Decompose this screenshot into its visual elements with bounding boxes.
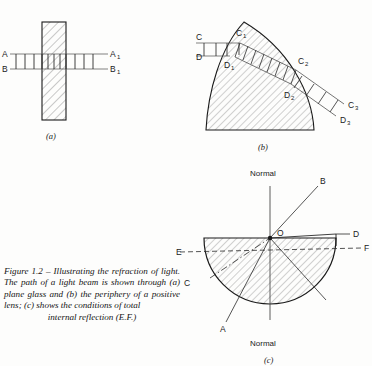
wavefronts-emergent bbox=[75, 54, 93, 69]
label-b1-emergent: B bbox=[110, 64, 116, 74]
panel-a-plane-glass: A B A 1 B 1 (a) bbox=[0, 12, 200, 142]
caption-last-line: internal reflection (E.F.) bbox=[4, 312, 180, 323]
glass-block bbox=[42, 22, 66, 120]
label-c-incident: C bbox=[196, 32, 202, 42]
label-c1-entry: C bbox=[236, 28, 242, 38]
label-b1-emergent-sub: 1 bbox=[117, 69, 121, 75]
centre-point-marker bbox=[268, 236, 272, 240]
label-ray-f: F bbox=[364, 243, 369, 253]
panel-c-total-internal-reflection: Normal Normal O B A C D E F (c) bbox=[180, 160, 372, 366]
lens-body bbox=[206, 22, 314, 130]
panel-b-lens-periphery: C D C 1 D 1 C 2 D 2 C 3 D 3 (b) bbox=[196, 14, 372, 154]
label-c2-mid: C bbox=[298, 56, 304, 66]
label-o-centre: O bbox=[277, 228, 284, 238]
label-ray-b: B bbox=[320, 176, 326, 186]
label-d3-exit-sub: 3 bbox=[347, 120, 351, 126]
label-b-incident: B bbox=[2, 64, 8, 74]
label-normal-bottom: Normal bbox=[250, 339, 276, 348]
figure-page: A B A 1 B 1 (a) bbox=[0, 0, 372, 366]
figure-caption: Figure 1.2 – Illustrating the refraction… bbox=[4, 266, 180, 323]
label-c3-exit-sub: 3 bbox=[355, 105, 359, 111]
label-ray-d: D bbox=[353, 229, 359, 239]
label-d1-entry: D bbox=[224, 60, 230, 70]
label-ray-a: A bbox=[220, 324, 226, 334]
label-a1-emergent: A bbox=[110, 49, 116, 59]
panel-b-label: (b) bbox=[258, 142, 268, 152]
label-d2-mid: D bbox=[284, 90, 290, 100]
label-d3-exit: D bbox=[340, 115, 346, 125]
wavefronts-incident bbox=[16, 54, 42, 69]
caption-body: Figure 1.2 – Illustrating the refraction… bbox=[4, 266, 180, 310]
label-a1-emergent-sub: 1 bbox=[117, 54, 121, 60]
label-a-incident: A bbox=[2, 49, 8, 59]
label-ray-c: C bbox=[184, 278, 190, 288]
label-c2-mid-sub: 2 bbox=[305, 61, 309, 67]
label-ray-e: E bbox=[176, 247, 182, 257]
label-c3-exit: C bbox=[348, 100, 354, 110]
label-normal-top: Normal bbox=[250, 169, 276, 178]
panel-a-label: (a) bbox=[46, 131, 56, 141]
label-d-incident: D bbox=[196, 52, 202, 62]
panel-c-label: (c) bbox=[264, 355, 274, 365]
